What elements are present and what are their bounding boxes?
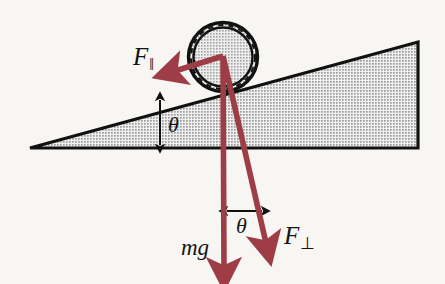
label-force-parallel-symbol: F [133,43,148,70]
label-force-parallel: F‖ [133,44,154,73]
diagram-canvas [0,0,445,284]
label-force-perpendicular-subscript: ⊥ [299,234,315,253]
label-force-perpendicular: F⊥ [284,223,315,252]
label-force-perpendicular-symbol: F [284,222,299,249]
vector-weight [223,56,224,268]
physics-diagram-figure: F‖ F⊥ mg θ θ [0,0,445,284]
label-incline-angle: θ [168,114,179,136]
label-force-parallel-subscript: ‖ [148,55,154,74]
label-force-angle: θ [236,215,247,237]
label-weight: mg [181,236,209,259]
